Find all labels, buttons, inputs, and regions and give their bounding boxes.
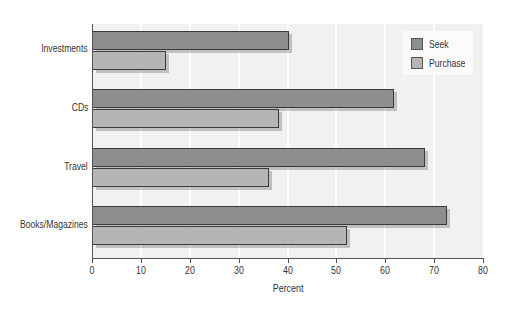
- x-axis-title: Percent: [273, 282, 304, 294]
- x-tick: [239, 258, 240, 263]
- category-label-investments: Investments: [42, 42, 88, 54]
- x-tick: [288, 258, 289, 263]
- x-tick-label: 80: [471, 264, 495, 276]
- x-tick-label: 20: [178, 264, 202, 276]
- x-tick: [434, 258, 435, 263]
- x-tick: [92, 258, 93, 263]
- x-tick-label: 40: [276, 264, 300, 276]
- bar-seek-travel: [93, 148, 425, 167]
- x-tick: [190, 258, 191, 263]
- legend-item-seek: Seek: [411, 38, 453, 50]
- x-tick-label: 60: [373, 264, 397, 276]
- legend-swatch-seek: [411, 38, 423, 50]
- bar-purchase-travel: [93, 168, 269, 187]
- x-tick-label: 70: [422, 264, 446, 276]
- bar-purchase-books-magazines: [93, 226, 347, 245]
- legend-label-purchase: Purchase: [429, 57, 465, 69]
- bar-seek-investments: [93, 31, 289, 50]
- category-label-books-magazines: Books/Magazines: [20, 218, 88, 230]
- x-tick-label: 30: [227, 264, 251, 276]
- category-label-cds: CDs: [71, 101, 88, 113]
- x-tick: [336, 258, 337, 263]
- legend: Seek Purchase: [403, 31, 473, 75]
- x-tick: [483, 258, 484, 263]
- legend-item-purchase: Purchase: [411, 57, 473, 69]
- x-tick: [141, 258, 142, 263]
- legend-label-seek: Seek: [429, 38, 449, 50]
- bar-seek-books-magazines: [93, 206, 447, 225]
- category-label-travel: Travel: [64, 160, 88, 172]
- bar-purchase-cds: [93, 109, 279, 128]
- bar-purchase-investments: [93, 51, 166, 70]
- x-tick-label: 50: [324, 264, 348, 276]
- bar-seek-cds: [93, 89, 394, 108]
- x-tick-label: 0: [80, 264, 104, 276]
- x-tick: [385, 258, 386, 263]
- legend-swatch-purchase: [411, 57, 423, 69]
- x-tick-label: 10: [129, 264, 153, 276]
